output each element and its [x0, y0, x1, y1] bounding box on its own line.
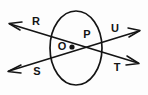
- vertex-label-t: T: [114, 61, 121, 73]
- geometry-canvas: R U O P S T: [0, 0, 148, 95]
- geometry-figure: R U O P S T: [0, 0, 148, 95]
- center-point-dot: [69, 44, 74, 49]
- vertex-label-s: S: [33, 65, 40, 77]
- center-label-o: O: [58, 40, 67, 52]
- arrowhead-s-icon: [8, 65, 21, 73]
- intersection-label-p: P: [83, 28, 90, 40]
- vertex-label-r: R: [32, 15, 40, 27]
- vertex-label-u: U: [111, 22, 119, 34]
